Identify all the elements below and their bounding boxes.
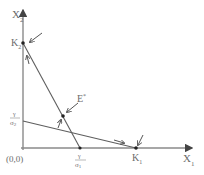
svg-text:γ: γ (77, 153, 81, 159)
y-axis-label: X2 (12, 8, 24, 24)
equilibrium-label: E* (77, 93, 86, 104)
x-intercept-point (78, 146, 81, 149)
x-intercept-label: γ σ1 (75, 153, 86, 169)
svg-text:γ: γ (12, 111, 16, 117)
k1-pointer-arrow (138, 135, 143, 145)
svg-text:σ1: σ1 (75, 161, 82, 169)
origin-label: (0,0) (6, 154, 23, 164)
y-intercept-label: γ σ2 (10, 111, 20, 127)
equilibrium-point (61, 114, 65, 118)
k1-label: K1 (132, 152, 142, 165)
k1-point (134, 146, 138, 150)
isocline-diagram: X2 X1 (0,0) K2 K1 E* γ σ2 γ σ1 (0, 0, 204, 175)
direction-arrow-isocline-1 (27, 56, 29, 64)
k2-pointer-arrow (30, 33, 42, 42)
x-axis-label: X1 (183, 152, 195, 168)
direction-arrow-equilibrium (58, 120, 61, 128)
equilibrium-pointer-arrow (67, 103, 78, 112)
k2-label: K2 (11, 37, 21, 50)
k2-point (21, 41, 25, 45)
isocline-2 (23, 121, 136, 148)
svg-text:σ2: σ2 (10, 119, 17, 127)
